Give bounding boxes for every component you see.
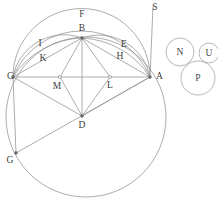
label-B: B	[79, 23, 85, 33]
label-G: G	[7, 155, 14, 165]
segment-CD	[13, 77, 82, 116]
geometry-canvas: A B C D E F G H I K L M S N U P	[0, 0, 218, 203]
label-M: M	[53, 81, 62, 91]
segment-CB	[13, 38, 82, 77]
label-K: K	[40, 53, 47, 63]
segment-BL	[82, 38, 110, 77]
label-A: A	[156, 71, 163, 81]
label-C: C	[7, 71, 13, 81]
geometry-figure: A B C D E F G H I K L M S N U P	[0, 0, 218, 203]
segment-LD	[82, 77, 110, 116]
label-E: E	[121, 39, 127, 49]
label-circle-N: N	[177, 47, 184, 57]
segment-CG	[13, 77, 16, 153]
vertex-dot-L	[109, 76, 112, 79]
label-F: F	[79, 9, 84, 19]
label-circle-U: U	[206, 48, 213, 58]
vertex-dot-B	[81, 37, 84, 40]
label-H: H	[117, 51, 124, 61]
main-circle	[6, 37, 166, 197]
vertex-dot-M	[59, 76, 62, 79]
segment-SA	[150, 6, 153, 77]
vertex-dot-A	[149, 76, 152, 79]
label-I: I	[38, 38, 41, 48]
label-D: D	[79, 120, 86, 130]
label-circle-P: P	[195, 73, 200, 83]
vertex-dot-G	[15, 152, 18, 155]
label-S: S	[152, 2, 157, 12]
vertex-dot-D	[81, 115, 84, 118]
label-L: L	[107, 80, 113, 90]
